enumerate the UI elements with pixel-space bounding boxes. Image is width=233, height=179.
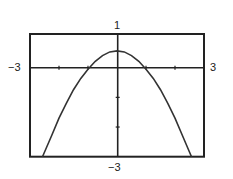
plot-area [0, 0, 233, 179]
